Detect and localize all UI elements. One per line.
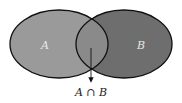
venn-diagram: A B A ∩ B [0,0,182,103]
set-b-label: B [136,39,145,52]
set-a-label: A [40,39,49,52]
intersection-label: A ∩ B [74,86,107,99]
